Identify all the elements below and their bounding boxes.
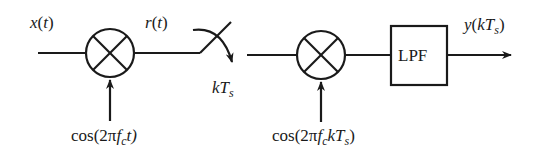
mixed-signal-label: r(t): [145, 14, 168, 31]
sampling-time-label: kTs: [212, 79, 234, 96]
multiplier-2-icon: [297, 31, 345, 79]
lpf-label: LPF: [398, 47, 427, 64]
input-signal-label: x(t): [30, 14, 54, 31]
oscillator-1-label: cos(2πfct): [71, 127, 137, 144]
multiplier-1-icon: [86, 29, 134, 77]
oscillator-2-label: cos(2πfckTs): [272, 127, 355, 144]
sampler-switch-icon: [193, 22, 232, 62]
output-signal-label: y(kTs): [464, 16, 505, 33]
